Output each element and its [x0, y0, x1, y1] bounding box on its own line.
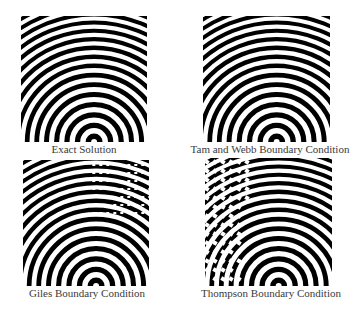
panel-thompson — [205, 158, 332, 286]
caption-giles: Giles Boundary Condition — [29, 287, 145, 299]
caption-exact-solution: Exact Solution — [51, 143, 116, 155]
panel-exact-solution — [21, 16, 147, 142]
caption-tam-webb: Tam and Webb Boundary Condition — [191, 143, 350, 155]
panel-giles — [23, 160, 149, 286]
caption-thompson: Thompson Boundary Condition — [201, 287, 341, 299]
panel-tam-webb — [203, 16, 330, 142]
